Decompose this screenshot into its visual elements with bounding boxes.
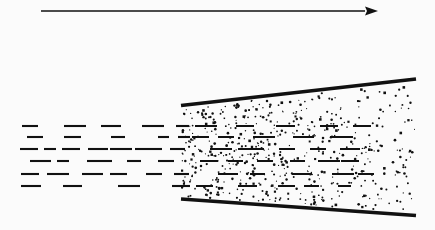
stipple-dot (339, 153, 340, 154)
stipple-dot (245, 183, 247, 185)
stipple-dot (320, 116, 322, 118)
stipple-dot (229, 153, 231, 155)
stipple-dot (331, 198, 333, 200)
stipple-dot (205, 188, 206, 189)
stipple-dot (377, 194, 379, 196)
stipple-dot (273, 174, 275, 176)
stipple-dot (184, 160, 187, 163)
stipple-dot (244, 109, 247, 112)
stipple-dot (234, 127, 236, 129)
stipple-dot (380, 187, 383, 190)
stipple-dot (299, 117, 300, 118)
stipple-dot (260, 116, 262, 118)
stipple-dot (206, 163, 208, 165)
stipple-dot (205, 118, 207, 120)
stipple-dot (205, 123, 208, 126)
stipple-dot (372, 208, 374, 210)
stipple-dot (346, 127, 347, 128)
stipple-dot (372, 122, 374, 124)
stipple-dot (222, 111, 224, 113)
stipple-dot (283, 164, 285, 166)
stipple-dot (405, 159, 407, 161)
stipple-dot (248, 140, 251, 143)
stipple-dot (361, 170, 364, 173)
stipple-dot (190, 113, 191, 114)
stipple-dot (354, 137, 356, 139)
stipple-dot (279, 151, 281, 153)
stipple-dot (241, 193, 243, 195)
stipple-dot (339, 195, 341, 197)
stipple-dot (335, 129, 338, 132)
stipple-dot (307, 125, 308, 126)
stipple-dot (241, 145, 243, 147)
stipple-dot (357, 176, 359, 178)
stipple-dot (288, 122, 290, 124)
stipple-dot (315, 204, 316, 205)
stipple-dot (271, 112, 273, 114)
stipple-dot (192, 133, 193, 134)
stipple-dot (410, 157, 411, 158)
stipple-dot (372, 180, 374, 182)
stipple-dot (396, 200, 398, 202)
stipple-dot (379, 91, 381, 93)
stipple-dot (337, 172, 338, 173)
stipple-dot (340, 109, 341, 110)
stipple-dot (267, 194, 269, 196)
stipple-dot (367, 158, 368, 159)
stipple-dot (246, 123, 247, 124)
stipple-dot (332, 177, 333, 178)
stipple-dot (273, 153, 275, 155)
stipple-dot (289, 101, 292, 104)
stipple-dot (262, 107, 263, 108)
stipple-dot (225, 168, 226, 169)
stipple-dot (211, 112, 213, 114)
stipple-dot (321, 171, 324, 174)
stipple-dot (213, 119, 215, 121)
stipple-dot (318, 97, 320, 99)
stipple-dot (378, 198, 379, 199)
stipple-dot (411, 151, 414, 154)
stipple-dot (267, 139, 269, 141)
stipple-dot (392, 161, 395, 164)
stipple-dot (293, 120, 295, 122)
stipple-dot (244, 138, 245, 139)
stipple-dot (214, 128, 217, 131)
stipple-dot (360, 88, 363, 91)
stipple-dot (238, 143, 240, 145)
stipple-dot (233, 164, 234, 165)
stipple-dot (261, 190, 263, 192)
stipple-dot (183, 180, 184, 181)
stipple-dot (287, 198, 289, 200)
stipple-dot (217, 179, 219, 181)
stipple-dot (314, 158, 316, 160)
stipple-dot (338, 129, 340, 131)
stipple-dot (229, 168, 231, 170)
stipple-dot (218, 188, 220, 190)
stipple-dot (353, 166, 354, 167)
stipple-dot (279, 199, 281, 201)
stipple-dot (379, 144, 381, 146)
stipple-dot (408, 108, 410, 110)
stipple-dot (198, 149, 199, 150)
stipple-dot (389, 105, 391, 107)
stipple-dot (185, 142, 186, 143)
stipple-dot (330, 123, 332, 125)
stipple-dot (331, 113, 332, 114)
stipple-dot (237, 143, 238, 144)
stipple-dot (363, 195, 365, 197)
stipple-dot (409, 102, 411, 104)
stipple-dot (274, 191, 276, 193)
stipple-dot (276, 181, 277, 182)
stipple-dot (382, 125, 384, 127)
stipple-dot (383, 167, 386, 170)
stipple-dot (397, 150, 398, 151)
stipple-dot (241, 154, 243, 156)
stipple-dot (399, 201, 401, 203)
stipple-dot (252, 106, 253, 107)
stipple-dot (330, 157, 332, 159)
stipple-dot (379, 108, 382, 111)
stipple-dot (209, 141, 210, 142)
stipple-dot (256, 123, 257, 124)
stipple-dot (336, 183, 338, 185)
stipple-dot (280, 158, 282, 160)
